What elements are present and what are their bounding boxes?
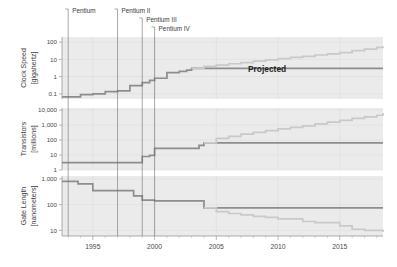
xtick-label-2: 2005 [209, 243, 224, 250]
ytick-label-clock-speed-1: 10 [50, 56, 57, 63]
projected-annotation-label: Projected [248, 64, 286, 74]
axis-title-clock-speed-line2: [gigahertz] [30, 52, 38, 85]
ytick-label-gate-length-0: 1,000 [42, 175, 58, 182]
axis-title-gate-length-line1: Gate Length [20, 187, 28, 226]
ytick-label-clock-speed-2: 1 [54, 73, 58, 80]
xtick-label-3: 2010 [270, 243, 285, 250]
panel-background-gate-length [62, 176, 383, 236]
panel-clock-speed: 1001010.1Clock Speed[gigahertz] [20, 37, 383, 99]
ytick-label-clock-speed-0: 100 [47, 38, 58, 45]
xtick-label-1: 2000 [147, 243, 162, 250]
panel-gate-length: 1,00010010Gate Length[nanometers] [20, 175, 383, 236]
ytick-label-transistors-2: 100 [47, 136, 58, 143]
xtick-label-4: 2015 [332, 243, 347, 250]
panel-transistors: 10,0001,000100101Transistors[millions] [20, 106, 383, 173]
axis-title-transistors-line1: Transistors [20, 121, 27, 156]
ytick-label-gate-length-1: 100 [47, 201, 58, 208]
ytick-label-transistors-3: 10 [50, 151, 57, 158]
ytick-label-transistors-0: 10,000 [38, 106, 57, 113]
ytick-label-transistors-4: 1 [54, 166, 58, 173]
chart-canvas: 1001010.1Clock Speed[gigahertz]10,0001,0… [0, 0, 397, 267]
panels-group: 1001010.1Clock Speed[gigahertz]10,0001,0… [20, 37, 383, 236]
annotation-label-0: Pentium [72, 7, 95, 14]
annotation-label-3: Pentium IV [159, 25, 191, 32]
axis-title-clock-speed-line1: Clock Speed [20, 48, 28, 88]
ytick-label-gate-length-2: 10 [50, 227, 57, 234]
ytick-label-transistors-1: 1,000 [42, 121, 58, 128]
ytick-label-clock-speed-3: 0.1 [48, 90, 57, 97]
annotation-label-1: Pentium II [122, 7, 151, 14]
axis-title-gate-length-line2: [nanometers] [30, 186, 38, 227]
axis-title-transistors-line2: [millions] [30, 125, 38, 152]
moores-law-chart: 1001010.1Clock Speed[gigahertz]10,0001,0… [0, 0, 397, 267]
annotation-label-2: Pentium III [146, 16, 177, 23]
xtick-label-0: 1995 [85, 243, 100, 250]
